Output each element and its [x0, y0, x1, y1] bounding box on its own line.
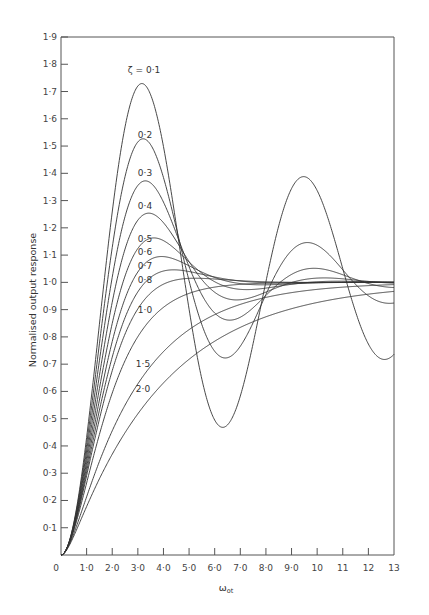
curve-label: 0·8	[138, 275, 153, 285]
y-tick-label: 1·4	[43, 168, 58, 178]
curve-label: 1·5	[136, 359, 150, 369]
axes-box	[61, 37, 394, 555]
y-axis-title: Normalised output response	[27, 233, 38, 368]
x-tick-label: 7·0	[233, 563, 248, 573]
x-tick-label: 2·0	[105, 563, 120, 573]
y-tick-label: 0·5	[43, 414, 57, 424]
curve-label: ζ = 0·1	[128, 65, 160, 75]
x-tick-label: 8·0	[259, 563, 274, 573]
y-tick-label: 1·3	[43, 196, 57, 206]
x-tick-label: 13	[388, 563, 399, 573]
curve-label: 0·5	[138, 234, 152, 244]
y-axis-ticks: 0·10·20·30·40·50·60·70·80·91·01·11·21·31…	[43, 32, 68, 533]
plot-frame	[61, 37, 394, 555]
y-tick-label: 1·9	[43, 32, 58, 42]
step-response-chart: 0·10·20·30·40·50·60·70·80·91·01·11·21·31…	[0, 0, 429, 615]
x-tick-label: 9·0	[284, 563, 299, 573]
curve-label: 0·3	[138, 168, 152, 178]
response-curve	[61, 282, 394, 555]
response-curve	[61, 213, 394, 555]
y-tick-label: 1·1	[43, 250, 57, 260]
curve-label: 0·2	[138, 130, 152, 140]
x-tick-label: 5·0	[182, 563, 197, 573]
curve-label: 2·0	[136, 384, 151, 394]
x-tick-label: 6·0	[208, 563, 223, 573]
y-tick-label: 1·7	[43, 87, 57, 97]
curve-label: 0·4	[138, 201, 153, 211]
x-tick-label: 12	[363, 563, 374, 573]
y-tick-label: 1·0	[43, 277, 58, 287]
x-tick-label: 10	[311, 563, 323, 573]
y-tick-label: 0·2	[43, 495, 57, 505]
curve-label: 0·6	[138, 247, 153, 257]
x-axis-title: ωot	[219, 582, 234, 595]
y-tick-label: 1·5	[43, 141, 57, 151]
y-tick-label: 0·4	[43, 441, 58, 451]
y-tick-label: 0·8	[43, 332, 58, 342]
y-tick-label: 0·7	[43, 359, 57, 369]
y-tick-label: 1·8	[43, 59, 58, 69]
x-tick-label: 11	[337, 563, 348, 573]
y-tick-label: 0·1	[43, 523, 57, 533]
x-tick-label: 0	[53, 563, 59, 573]
response-curve	[61, 285, 394, 555]
y-tick-label: 1·6	[43, 114, 58, 124]
response-curve	[61, 84, 394, 555]
x-tick-label: 1·0	[79, 563, 94, 573]
x-axis-ticks: 01·02·03·04·05·06·07·08·09·010111213	[53, 548, 400, 573]
x-tick-label: 3·0	[131, 563, 146, 573]
response-curves	[61, 84, 394, 555]
response-curve	[61, 270, 394, 555]
response-curve	[61, 181, 394, 555]
y-tick-label: 0·9	[43, 305, 58, 315]
curve-label: 1·0	[138, 305, 153, 315]
y-tick-label: 1·2	[43, 223, 57, 233]
curve-label: 0·7	[138, 261, 152, 271]
x-tick-label: 4·0	[156, 563, 171, 573]
y-tick-label: 0·3	[43, 468, 57, 478]
y-tick-label: 0·6	[43, 386, 58, 396]
response-curve	[61, 257, 394, 555]
